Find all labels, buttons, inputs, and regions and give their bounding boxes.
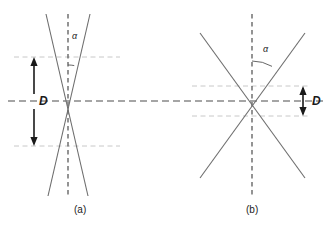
panel-a-angle-label: α — [72, 32, 77, 41]
panel-a-group — [14, 14, 120, 196]
panel-b-dimension-arrow-lower-head — [299, 107, 306, 116]
figure-root: α D (a) α D (b) — [0, 0, 333, 225]
panel-b-angle-label: α — [263, 45, 268, 54]
panel-b-angle-arc — [252, 61, 272, 66]
panel-b-dimension-label: D — [312, 95, 321, 107]
panel-b-caption: (b) — [246, 205, 258, 215]
panel-a-dimension-arrow-upper-head — [30, 57, 37, 66]
panel-a-dimension-label: D — [39, 95, 48, 107]
panel-a-dimension-arrow-lower-head — [30, 137, 37, 146]
panel-a-beam-line-left — [46, 14, 88, 196]
panel-a-angle-arc — [68, 65, 74, 66]
panel-a-beam-line-right — [48, 14, 90, 196]
panel-b-group — [192, 14, 308, 196]
panel-a-caption: (a) — [74, 205, 86, 215]
diagram-canvas — [0, 0, 333, 225]
panel-b-dimension-arrow-upper-head — [299, 86, 306, 95]
